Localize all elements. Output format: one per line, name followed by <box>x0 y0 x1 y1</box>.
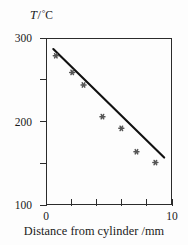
y-tick-label: 200 <box>2 116 32 128</box>
fit-line-segment <box>53 49 164 158</box>
y-tick-mark <box>40 121 47 122</box>
plot-canvas <box>47 39 173 206</box>
x-tick-label: 10 <box>160 210 184 222</box>
data-point-marker <box>153 160 158 164</box>
data-point-marker <box>119 126 124 130</box>
temperature-distance-chart: T/°C 100200300 010 Distance from cylinde… <box>0 0 188 245</box>
x-tick-mark <box>71 199 72 206</box>
x-tick-label: 0 <box>34 210 58 222</box>
x-axis-label: Distance from cylinder /mm <box>0 224 188 238</box>
data-point-marker <box>134 150 139 154</box>
data-point-series <box>53 54 158 165</box>
x-tick-mark <box>172 199 173 206</box>
data-point-marker <box>70 70 75 74</box>
y-tick-mark <box>40 38 47 39</box>
data-point-marker <box>100 114 105 118</box>
data-point-marker <box>81 83 86 87</box>
y-axis-label: T/°C <box>30 6 53 22</box>
plot-area <box>46 38 172 205</box>
x-tick-mark <box>96 199 97 206</box>
x-tick-mark <box>46 199 47 206</box>
y-axis-unit: C <box>45 9 53 21</box>
y-tick-mark <box>40 163 47 164</box>
best-fit-line <box>53 49 164 158</box>
y-tick-label: 100 <box>2 199 32 211</box>
x-tick-mark <box>121 199 122 206</box>
y-tick-mark <box>40 79 47 80</box>
y-axis-quantity-symbol: T <box>30 8 37 22</box>
x-tick-mark <box>146 199 147 206</box>
y-tick-label: 300 <box>2 32 32 44</box>
